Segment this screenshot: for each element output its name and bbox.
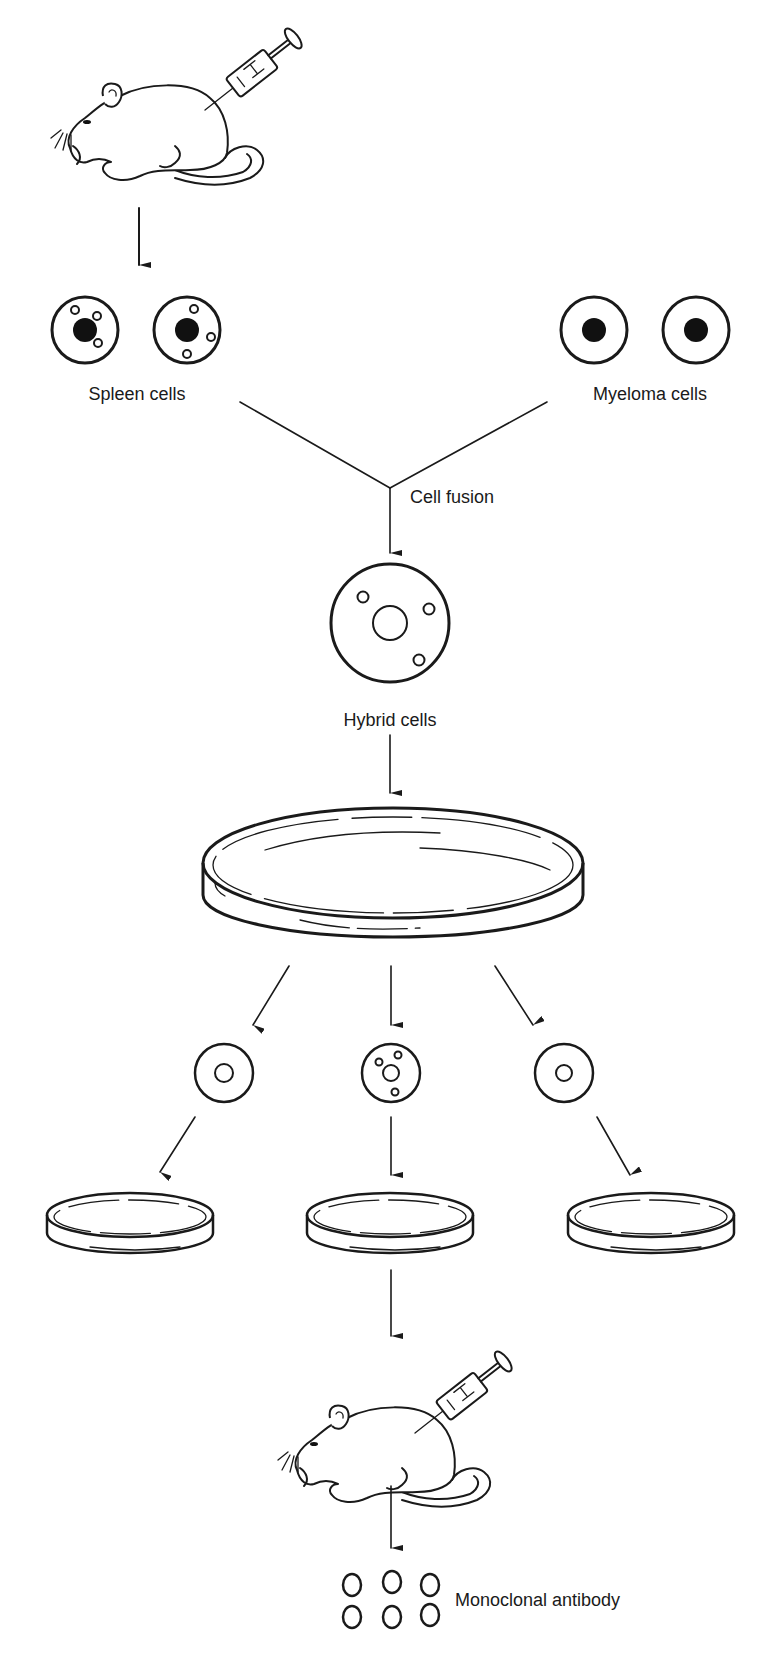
cell-fusion-label: Cell fusion bbox=[410, 487, 494, 507]
monoclonal-antibody-diagram: Spleen cells Myeloma cells Cell fusion H… bbox=[0, 0, 767, 1660]
clone-dish-icon bbox=[307, 1193, 473, 1253]
myeloma-cells-label: Myeloma cells bbox=[593, 384, 707, 404]
hybrid-cells-label: Hybrid cells bbox=[343, 710, 436, 730]
spleen-cell-icon bbox=[154, 297, 220, 363]
hybrid-cell-icon bbox=[331, 564, 449, 682]
clone-cell-icon bbox=[362, 1044, 420, 1102]
clone-cell-icon bbox=[535, 1044, 593, 1102]
arrow-down-left-icon bbox=[253, 966, 289, 1025]
spleen-cell-icon bbox=[52, 297, 118, 363]
spleen-cells-label: Spleen cells bbox=[88, 384, 185, 404]
clone-dish-icon bbox=[47, 1193, 213, 1253]
injected-mouse-icon bbox=[278, 1406, 490, 1507]
syringe-icon bbox=[415, 1349, 516, 1433]
antibody-icons bbox=[343, 1571, 439, 1628]
syringe-icon bbox=[205, 26, 306, 110]
arrow-down-right-icon bbox=[597, 1117, 630, 1175]
clone-dish-icon bbox=[568, 1193, 734, 1253]
arrow-down-right-icon bbox=[495, 966, 533, 1025]
monoclonal-antibody-label: Monoclonal antibody bbox=[455, 1590, 620, 1610]
myeloma-cell-icon bbox=[561, 297, 627, 363]
clone-cell-icon bbox=[195, 1044, 253, 1102]
fusion-line-left bbox=[240, 402, 390, 488]
immunized-mouse-icon bbox=[51, 84, 263, 185]
culture-dish-icon bbox=[203, 808, 583, 937]
arrow-down-left-icon bbox=[160, 1117, 195, 1172]
fusion-line-right bbox=[390, 402, 547, 488]
myeloma-cell-icon bbox=[663, 297, 729, 363]
